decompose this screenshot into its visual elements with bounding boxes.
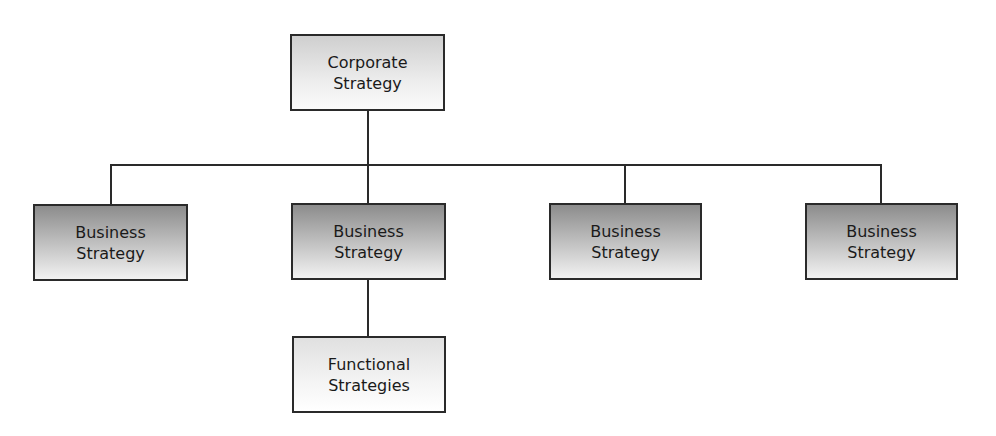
connector-business-1 (110, 164, 112, 204)
business-strategy-node-3: Business Strategy (549, 203, 702, 280)
connector-business-4 (880, 164, 882, 204)
business-strategy-node-2: Business Strategy (291, 203, 446, 280)
business-strategy-label: Business Strategy (590, 221, 661, 263)
functional-strategies-label: Functional Strategies (328, 354, 410, 396)
business-strategy-label: Business Strategy (75, 222, 146, 264)
business-strategy-label: Business Strategy (333, 221, 404, 263)
connector-functional (367, 280, 369, 336)
corporate-strategy-label: Corporate Strategy (328, 52, 408, 94)
connector-business-2 (367, 164, 369, 204)
corporate-strategy-node: Corporate Strategy (290, 34, 445, 111)
connector-business-3 (624, 164, 626, 204)
connector-horizontal-bus (110, 164, 882, 166)
business-strategy-node-4: Business Strategy (805, 203, 958, 280)
business-strategy-node-1: Business Strategy (33, 204, 188, 281)
functional-strategies-node: Functional Strategies (292, 336, 446, 413)
connector-root-down (367, 111, 369, 165)
business-strategy-label: Business Strategy (846, 221, 917, 263)
